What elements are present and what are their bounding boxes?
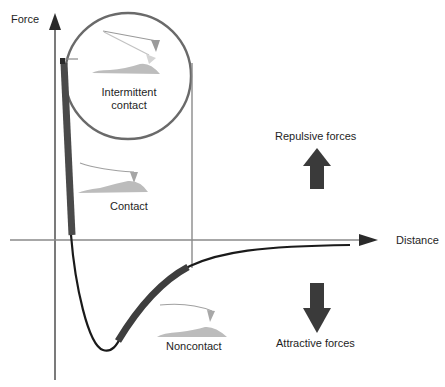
x-axis-label: Distance: [396, 234, 439, 247]
intermittent-label-line1: Intermittent: [96, 86, 162, 99]
intermittent-contact-label: Intermittent contact: [96, 86, 162, 112]
repulsive-arrow-icon: [303, 148, 331, 189]
tip-icon: [151, 40, 160, 52]
y-axis-label: Force: [11, 13, 39, 26]
cantilever-icon: [80, 163, 134, 172]
sample-surface-icon: [157, 327, 227, 337]
contact-illustration: [78, 163, 148, 193]
cantilever-icon: [160, 304, 212, 311]
noncontact-label: Noncontact: [166, 340, 222, 353]
contact-region-highlight: [64, 63, 72, 235]
intermittent-contact-circle: [65, 13, 191, 139]
x-axis-arrowhead-icon: [359, 234, 378, 246]
attractive-arrow-icon: [303, 283, 331, 333]
force-distance-diagram: [0, 0, 445, 387]
tip-icon: [207, 310, 215, 322]
x-axis: [10, 234, 378, 246]
sample-surface-icon: [92, 64, 160, 74]
intermittent-label-line2: contact: [96, 99, 162, 112]
noncontact-illustration: [157, 304, 227, 337]
y-axis: [49, 13, 61, 380]
sample-surface-icon: [78, 181, 148, 193]
repulsive-forces-label: Repulsive forces: [275, 130, 356, 143]
y-axis-arrowhead-icon: [49, 13, 61, 30]
attractive-forces-label: Attractive forces: [276, 337, 355, 350]
contact-label: Contact: [110, 200, 148, 213]
